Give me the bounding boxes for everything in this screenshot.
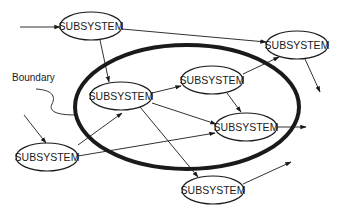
edge-g-to-external — [243, 162, 291, 184]
subsystem-node-c: SUBSYSTEM — [89, 82, 154, 110]
subsystem-label: SUBSYSTEM — [181, 184, 246, 196]
boundary-label: Boundary — [12, 72, 55, 83]
subsystem-node-b: SUBSYSTEM — [265, 31, 330, 59]
boundary-pointer-line — [36, 89, 76, 115]
edge-external-to-f — [24, 115, 46, 143]
subsystem-node-g: SUBSYSTEM — [181, 176, 246, 204]
edge-d-to-e — [227, 93, 241, 112]
subsystem-label: SUBSYSTEM — [265, 39, 330, 51]
subsystem-label: SUBSYSTEM — [180, 74, 245, 86]
edge-b-to-external — [305, 59, 320, 92]
edge-c-to-d — [152, 86, 181, 93]
subsystem-node-e: SUBSYSTEM — [214, 113, 279, 141]
subsystem-node-f: SUBSYSTEM — [15, 143, 80, 171]
subsystem-node-a: SUBSYSTEM — [59, 12, 124, 40]
subsystem-label: SUBSYSTEM — [59, 20, 124, 32]
nodes: SUBSYSTEMSUBSYSTEMSUBSYSTEMSUBSYSTEMSUBS… — [15, 12, 330, 204]
edge-c-to-e — [152, 103, 216, 124]
subsystem-node-d: SUBSYSTEM — [180, 66, 245, 94]
subsystem-diagram: Boundary SUBSYSTEMSUBSYSTEMSUBSYSTEMSUBS… — [0, 0, 347, 221]
edge-a-to-b — [122, 29, 266, 42]
subsystem-label: SUBSYSTEM — [15, 151, 80, 163]
subsystem-label: SUBSYSTEM — [214, 121, 279, 133]
subsystem-label: SUBSYSTEM — [89, 90, 154, 102]
